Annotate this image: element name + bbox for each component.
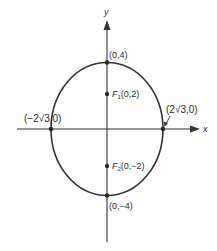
focus1-label: F1(0,2): [112, 89, 139, 100]
focus2-coords: (0,−2): [121, 161, 145, 171]
top-vertex-label: (0,4): [109, 50, 128, 60]
focus2-label: F2(0,−2): [112, 161, 145, 172]
y-axis-label: y: [103, 7, 109, 17]
x-axis-label: x: [202, 124, 208, 134]
ellipse-diagram: x y (0,4) (0,−4) (−2√3,0) (2√3,0) F1(0,2…: [0, 0, 217, 251]
focus1-point: [105, 92, 109, 96]
left-covertex-label: (−2√3,0): [24, 113, 61, 124]
x-axis-arrow-icon: [190, 126, 200, 133]
y-axis-arrow-icon: [104, 20, 111, 30]
bottom-vertex-label: (0,−4): [109, 201, 133, 211]
focus2-point: [105, 164, 109, 168]
x-axis: x: [17, 124, 208, 134]
left-covertex-point: [49, 127, 54, 132]
bottom-vertex-point: [105, 193, 110, 198]
top-vertex-point: [105, 60, 110, 65]
right-covertex-pointer: [164, 116, 170, 127]
pointer-arrow-icon: [164, 122, 168, 128]
right-covertex-point: [161, 127, 166, 132]
focus1-coords: (0,2): [121, 89, 140, 99]
right-covertex-label: (2√3,0): [166, 104, 198, 115]
